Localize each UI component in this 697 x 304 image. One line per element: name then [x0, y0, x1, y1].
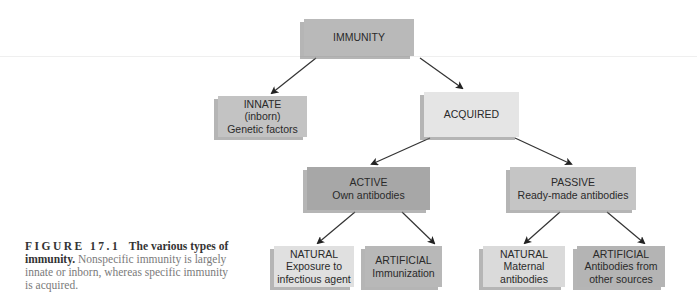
node-passive-artificial-line-1: ARTIFICIAL — [593, 248, 649, 261]
node-active-artificial: ARTIFICIAL Immunization — [365, 246, 442, 287]
arrow-acquired-passive — [515, 138, 571, 164]
node-passive-natural: NATURAL Maternal antibodies — [483, 246, 565, 287]
node-active-artificial-line-1: ARTIFICIAL — [375, 254, 431, 267]
node-passive-artificial-line-2: Antibodies from — [585, 260, 658, 273]
node-passive-natural-line-1: NATURAL — [500, 248, 548, 261]
arrow-acquired-active — [372, 138, 430, 164]
node-innate-line-1: INNATE — [244, 98, 282, 111]
node-passive-artificial-line-3: other sources — [589, 273, 653, 286]
node-active-artificial-line-2: Immunization — [372, 267, 434, 280]
node-innate-line-3: Genetic factors — [227, 123, 298, 136]
node-active-line-2: Own antibodies — [332, 189, 404, 202]
node-active-line-1: ACTIVE — [350, 176, 388, 189]
arrow-active-artificial — [402, 212, 434, 243]
node-active: ACTIVE Own antibodies — [307, 167, 430, 210]
figure-caption: FIGURE 17.1 The various types of immunit… — [25, 240, 235, 292]
arrow-active-natural — [318, 212, 355, 243]
immunity-diagram: IMMUNITY INNATE (inborn) Genetic factors… — [0, 0, 697, 304]
node-passive-line-1: PASSIVE — [551, 176, 595, 189]
arrow-immunity-acquired — [420, 58, 462, 88]
node-active-natural: NATURAL Exposure to infectious agent — [274, 246, 354, 287]
node-acquired: ACQUIRED — [424, 92, 519, 137]
node-immunity: IMMUNITY — [304, 19, 414, 56]
node-immunity-label: IMMUNITY — [333, 31, 385, 44]
node-innate: INNATE (inborn) Genetic factors — [218, 96, 307, 137]
node-passive: PASSIVE Ready-made antibodies — [510, 167, 636, 210]
node-active-natural-line-2: Exposure to — [286, 260, 342, 273]
node-passive-natural-line-2: Maternal — [504, 260, 545, 273]
arrow-passive-natural — [525, 212, 560, 243]
node-passive-artificial: ARTIFICIAL Antibodies from other sources — [577, 246, 665, 287]
node-acquired-label: ACQUIRED — [444, 108, 499, 121]
arrow-immunity-innate — [272, 58, 316, 93]
node-active-natural-line-1: NATURAL — [290, 248, 338, 261]
node-passive-line-2: Ready-made antibodies — [518, 189, 629, 202]
node-passive-natural-line-3: antibodies — [500, 273, 548, 286]
node-innate-line-2: (inborn) — [244, 110, 280, 123]
figure-label: FIGURE 17.1 — [25, 240, 120, 252]
node-active-natural-line-3: infectious agent — [277, 273, 351, 286]
arrow-passive-artificial — [607, 212, 644, 243]
